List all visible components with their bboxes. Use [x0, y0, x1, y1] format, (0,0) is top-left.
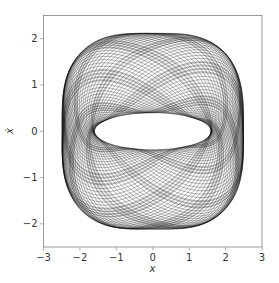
trajectory-line — [62, 33, 243, 229]
x-axis-ticks: −3−2−10123 — [36, 247, 265, 263]
y-tick-label: 0 — [31, 126, 37, 137]
x-tick-label: −3 — [36, 252, 51, 263]
y-tick-label: 2 — [31, 33, 37, 44]
phase-portrait-chart: −3−2−10123 −2−1012 x ẋ — [0, 0, 279, 283]
x-axis-label: x — [149, 263, 156, 274]
axes-frame — [44, 16, 263, 248]
y-tick-label: 1 — [31, 79, 37, 90]
y-tick-label: −2 — [23, 218, 38, 229]
x-tick-label: 1 — [186, 252, 192, 263]
x-tick-label: −1 — [109, 252, 124, 263]
x-tick-label: 0 — [150, 252, 156, 263]
x-tick-label: 3 — [259, 252, 265, 263]
x-tick-label: 2 — [222, 252, 228, 263]
x-tick-label: −2 — [73, 252, 88, 263]
trajectory-curves — [62, 33, 243, 229]
y-axis-label: ẋ — [4, 128, 15, 135]
y-axis-ticks: −2−1012 — [23, 33, 44, 229]
y-tick-label: −1 — [23, 172, 38, 183]
